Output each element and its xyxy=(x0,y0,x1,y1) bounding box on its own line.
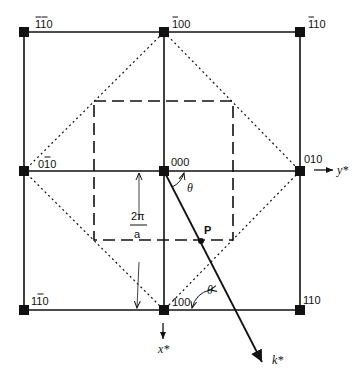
dimension-numerator: 2π xyxy=(131,210,145,222)
node-label-010: 010 xyxy=(304,153,322,165)
node-marker xyxy=(295,305,305,315)
node-marker xyxy=(159,27,169,37)
node-marker xyxy=(19,166,29,176)
reciprocal-lattice-diagram: 110 100 110 010 000 010 110 100 110 y* x… xyxy=(0,0,362,382)
node-label-000: 000 xyxy=(171,156,189,168)
point-p-marker xyxy=(198,238,204,244)
node-marker xyxy=(159,305,169,315)
k-vector-arrow xyxy=(164,171,262,362)
angle-label-bottom: θ xyxy=(207,283,213,297)
point-p-label: P xyxy=(204,224,211,236)
dimension-denominator: a xyxy=(134,228,141,240)
node-label-010b: 010 xyxy=(38,158,56,170)
node-labels: 110 100 110 010 000 010 110 100 110 xyxy=(31,17,326,308)
node-label-100b: 100 xyxy=(172,18,190,30)
node-marker xyxy=(295,27,305,37)
node-label-110b1: 110 xyxy=(308,18,326,30)
dimension-arrow-down xyxy=(137,262,139,308)
angle-label-top: θ xyxy=(187,181,193,195)
k-vector-label: k* xyxy=(272,353,283,367)
node-label-110b2: 110 xyxy=(31,295,49,307)
node-label-110bb: 110 xyxy=(35,18,53,30)
node-marker xyxy=(295,166,305,176)
node-label-100: 100 xyxy=(172,296,190,308)
node-marker xyxy=(19,305,29,315)
y-axis-label: y* xyxy=(336,163,348,177)
node-marker xyxy=(19,27,29,37)
angle-arc-top xyxy=(172,173,184,187)
node-label-110: 110 xyxy=(303,294,321,306)
x-axis-label: x* xyxy=(157,342,169,356)
